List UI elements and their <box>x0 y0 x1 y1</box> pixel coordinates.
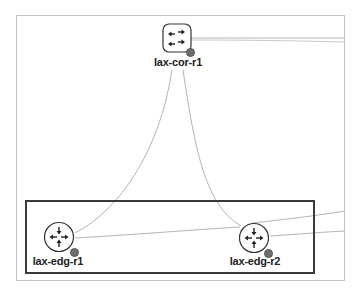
topology-canvas[interactable]: lax-cor-r1 lax-edg-r1 <box>0 0 359 295</box>
node-label: lax-edg-r2 <box>230 255 281 267</box>
router-arrows-icon <box>43 221 75 253</box>
link-cor-r1-right-b[interactable] <box>191 40 345 42</box>
node-label: lax-cor-r1 <box>154 56 202 68</box>
node-label: lax-edg-r1 <box>33 255 84 267</box>
